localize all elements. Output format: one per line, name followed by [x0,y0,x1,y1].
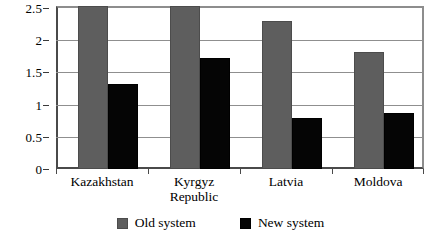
x-axis: Kazakhstan Kyrgyz Republic Latvia Moldov… [56,174,424,208]
chart-legend: Old system New system [0,216,441,230]
legend-label-old-system: Old system [135,216,196,230]
bar-new-kazakhstan [108,84,138,169]
x-axis-label-latvia: Latvia [240,174,332,189]
bar-old-kazakhstan [78,6,108,169]
y-axis-tick-1-5 [43,72,49,73]
bar-new-latvia [292,118,322,169]
y-axis: 2.5 2 1.5 1 0.5 0 [0,0,52,244]
legend-item-old-system: Old system [117,216,196,230]
y-axis-tick-1 [43,105,49,106]
y-axis-tick-2-5 [43,8,49,9]
y-axis-label-1: 1 [35,99,42,112]
y-axis-label-1-5: 1.5 [25,66,42,79]
y-axis-tick-0-5 [43,137,49,138]
x-axis-label-kazakhstan: Kazakhstan [56,174,148,189]
bar-old-latvia [262,21,292,169]
top-margin-spacer [0,0,441,4]
y-axis-label-2-5: 2.5 [25,2,42,15]
legend-label-new-system: New system [258,216,324,230]
bar-new-moldova [384,113,414,169]
bar-old-moldova [354,52,384,169]
bars-layer [56,6,424,169]
y-axis-label-0-5: 0.5 [25,131,42,144]
legend-item-new-system: New system [240,216,324,230]
y-axis-label-0: 0 [35,163,42,176]
x-axis-label-kyrgyz-republic: Kyrgyz Republic [148,174,240,204]
y-axis-tick-2 [43,40,49,41]
old-system-swatch-icon [117,218,128,229]
y-axis-label-2: 2 [35,34,42,47]
y-axis-tick-0 [43,169,49,170]
bar-old-kyrgyz-republic [170,6,200,169]
new-system-swatch-icon [240,218,251,229]
bar-new-kyrgyz-republic [200,58,230,169]
x-axis-label-moldova: Moldova [332,174,424,189]
bar-chart: 2.5 2 1.5 1 0.5 0 [0,0,441,244]
